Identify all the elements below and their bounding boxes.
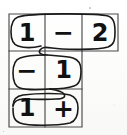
cell-r2c1-operator: − bbox=[9, 51, 45, 89]
scanned-puzzle-image: 1 − 2 − 1 1 + bbox=[0, 0, 127, 135]
cell-r1c1-digit: 1 bbox=[9, 14, 45, 51]
scan-speck-edge bbox=[3, 131, 4, 132]
cell-r1c2-operator: − bbox=[45, 14, 82, 51]
cell-r1c3-digit: 2 bbox=[82, 14, 118, 51]
cell-r3c1-digit: 1 bbox=[9, 89, 45, 127]
scan-speck-top bbox=[89, 7, 91, 9]
cell-r3c2-operator: + bbox=[45, 89, 82, 127]
cell-r2c2-digit: 1 bbox=[45, 51, 82, 89]
